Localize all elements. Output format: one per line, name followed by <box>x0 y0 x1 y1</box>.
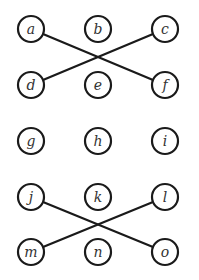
node-label: k <box>94 189 102 205</box>
node-h: h <box>85 128 111 154</box>
node-n: n <box>85 239 111 265</box>
node-i: i <box>152 128 178 154</box>
node-label: d <box>27 77 36 93</box>
node-label: b <box>94 21 103 37</box>
node-label: e <box>94 77 102 93</box>
node-label: c <box>161 21 169 37</box>
node-e: e <box>85 72 111 98</box>
graph-diagram: abcdefghijklmno <box>0 0 199 280</box>
node-g: g <box>18 128 44 154</box>
node-label: o <box>161 244 169 260</box>
node-label: g <box>27 133 36 149</box>
node-b: b <box>85 16 111 42</box>
node-label: i <box>163 133 167 149</box>
node-m: m <box>18 239 44 265</box>
nodes-layer: abcdefghijklmno <box>18 16 178 265</box>
node-label: a <box>27 21 35 37</box>
node-label: n <box>93 244 102 260</box>
node-label: l <box>163 189 167 205</box>
node-j: j <box>18 184 44 210</box>
node-f: f <box>152 72 178 98</box>
node-a: a <box>18 16 44 42</box>
node-label: m <box>24 244 37 260</box>
node-l: l <box>152 184 178 210</box>
node-d: d <box>18 72 44 98</box>
node-k: k <box>85 184 111 210</box>
node-o: o <box>152 239 178 265</box>
node-c: c <box>152 16 178 42</box>
node-label: h <box>93 133 102 149</box>
